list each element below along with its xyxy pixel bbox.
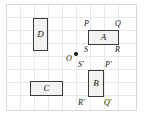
geometry-figure: D C A B P Q S R S′ P′ R′ Q′ O [0, 0, 144, 116]
rectangle-a: A [88, 30, 119, 45]
rectangle-a-label: A [101, 33, 107, 42]
vertex-label-q-prime: Q′ [104, 99, 112, 107]
vertex-label-q: Q [115, 20, 121, 28]
vertex-label-p: P [84, 20, 89, 28]
vertex-label-s-prime: S′ [78, 61, 84, 69]
rectangle-b-label: B [93, 79, 99, 88]
rectangle-d: D [33, 18, 48, 51]
vertex-label-r-prime: R′ [78, 99, 85, 107]
rectangle-b: B [88, 70, 104, 97]
vertex-label-r: R [115, 46, 120, 54]
center-point-label: O [66, 55, 72, 63]
rectangle-c: C [30, 81, 63, 96]
center-point-dot [74, 52, 78, 56]
vertex-label-p-prime: P′ [105, 61, 112, 69]
rectangle-c-label: C [43, 84, 49, 93]
vertex-label-s: S [84, 46, 88, 54]
rectangle-d-label: D [37, 30, 44, 39]
